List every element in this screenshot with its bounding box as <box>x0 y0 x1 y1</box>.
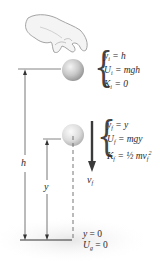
eq-u-ground: Ug = 0 <box>83 240 108 254</box>
velocity-label: vf <box>87 174 93 186</box>
ground-equations: y = 0 Ug = 0 <box>83 229 108 254</box>
eq-k-final: Kf = ½ mvf2 <box>107 148 151 165</box>
ball-final <box>62 124 84 146</box>
final-equations: yf = y Uf = mgy Kf = ½ mvf2 <box>107 120 151 165</box>
eq-u-initial: Ui = mgh <box>104 65 140 79</box>
eq-y-final: yf = y <box>107 120 151 134</box>
velocity-arrow-head <box>88 161 96 172</box>
y-arrow-up <box>45 140 49 146</box>
y-label: y <box>44 181 48 192</box>
height-arrow-up <box>23 70 27 76</box>
eq-y-initial: yi = h <box>104 51 140 65</box>
eq-u-final: Uf = mgy <box>107 134 151 148</box>
initial-equations: yi = h Ui = mgh Ki = 0 <box>104 51 140 93</box>
height-label: h <box>21 157 26 168</box>
hand-icon <box>26 15 88 53</box>
eq-k-initial: Ki = 0 <box>104 79 140 93</box>
ball-initial <box>62 59 84 81</box>
eq-y-ground: y = 0 <box>83 229 108 240</box>
